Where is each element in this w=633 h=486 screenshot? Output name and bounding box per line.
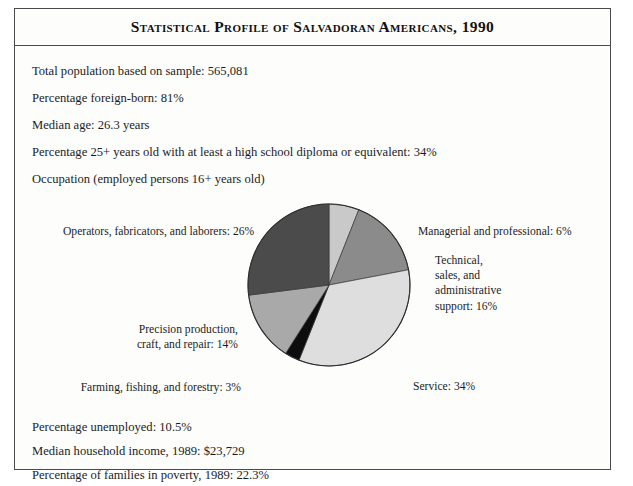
pie-label-technical-line2: sales, and	[435, 268, 543, 283]
occupation-pie-chart: Operators, fabricators, and laborers: 26…	[15, 46, 610, 470]
figure-body: Total population based on sample: 565,08…	[15, 46, 610, 470]
figure-title-bar: Statistical Profile of Salvadoran Americ…	[15, 9, 610, 46]
stat-line-unemployed: Percentage unemployed: 10.5%	[32, 420, 192, 435]
pie-label-service: Service: 34%	[413, 379, 475, 394]
pie-label-operators: Operators, fabricators, and laborers: 26…	[63, 224, 241, 239]
pie-label-technical-line3: administrative	[435, 283, 543, 298]
page-title: Statistical Profile of Salvadoran Americ…	[131, 18, 495, 36]
pie-chart-svg	[246, 202, 412, 368]
pie-label-managerial: Managerial and professional: 6%	[418, 224, 572, 239]
statistical-profile-figure: Statistical Profile of Salvadoran Americ…	[14, 8, 611, 470]
pie-slice-operators	[248, 204, 329, 295]
pie-label-farming: Farming, fishing, and forestry: 3%	[53, 380, 241, 395]
pie-label-technical-line4: support: 16%	[435, 299, 543, 314]
pie-label-technical-line1: Technical,	[435, 253, 543, 268]
stat-line-families-poverty: Percentage of families in poverty, 1989:…	[32, 468, 269, 483]
stat-line-household-income: Median household income, 1989: $23,729	[32, 444, 245, 459]
pie-label-precision-line2: craft, and repair: 14%	[95, 337, 238, 352]
pie-label-precision-line1: Precision production,	[95, 322, 238, 337]
